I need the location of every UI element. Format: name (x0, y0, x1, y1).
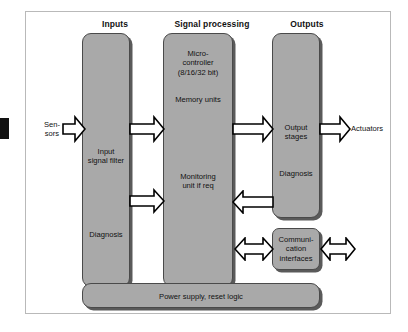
block-label-communication-interfaces: Communi- cation interfaces (273, 235, 319, 263)
arrow-signal-processing-to-communication-icon (234, 237, 274, 261)
arrow-outputs-diagnosis-to-monitoring-icon (232, 190, 274, 214)
column-heading-inputs: Inputs (78, 19, 152, 29)
block-label-inputs-diagnosis: Diagnosis (83, 230, 129, 239)
diagram-canvas: Inputs Signal processing Outputs Sen- so… (0, 0, 408, 332)
block-label-power-supply: Power supply, reset logic (83, 292, 319, 301)
block-outputs-column[interactable]: Output stages Diagnosis (272, 33, 320, 218)
arrow-inputs-diagnosis-to-signal-processing-icon (129, 188, 165, 214)
block-label-monitoring-unit: Monitoring unit if req (164, 172, 232, 191)
block-communication-interfaces[interactable]: Communi- cation interfaces (272, 228, 320, 270)
block-label-memory-units: Memory units (164, 95, 232, 104)
column-heading-outputs: Outputs (270, 19, 344, 29)
arrow-outputs-to-actuators-icon (319, 115, 351, 143)
arrow-communication-to-external-icon (320, 237, 356, 261)
block-label-input-signal-filter: Input signal filter (83, 147, 129, 166)
block-label-microcontroller: Micro- controller (8/16/32 bit) (164, 49, 232, 77)
column-heading-signal-processing: Signal processing (155, 19, 269, 29)
left-edge-tab-marker (0, 118, 9, 139)
block-power-supply[interactable]: Power supply, reset logic (82, 283, 320, 308)
block-signal-processing-column[interactable]: Micro- controller (8/16/32 bit) Memory u… (163, 33, 233, 287)
block-inputs-column[interactable]: Input signal filter Diagnosis (82, 33, 130, 287)
external-label-actuators: Actuators (351, 124, 401, 133)
block-label-outputs-diagnosis: Diagnosis (273, 169, 319, 178)
arrow-signal-processing-to-outputs-icon (232, 115, 274, 143)
arrow-inputs-filter-to-signal-processing-icon (129, 115, 165, 143)
block-label-output-stages: Output stages (273, 123, 319, 142)
arrow-sensors-to-inputs-icon (62, 115, 86, 143)
